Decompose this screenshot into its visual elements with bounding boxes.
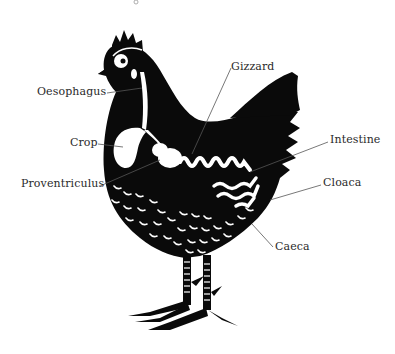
hen-digestive-diagram: Oesophagus Crop Proventriculus Gizzard I… (0, 0, 395, 354)
label-caeca: Caeca (275, 241, 310, 253)
leader-caeca (252, 224, 273, 247)
hen-silhouette (98, 30, 300, 330)
label-intestine: Intestine (330, 134, 380, 146)
stray-mark (134, 0, 138, 4)
label-proventriculus: Proventriculus (21, 178, 104, 190)
label-crop: Crop (70, 137, 98, 149)
label-cloaca: Cloaca (323, 177, 361, 189)
wattle (131, 69, 137, 79)
label-gizzard: Gizzard (231, 61, 274, 73)
leader-cloaca (270, 185, 321, 200)
label-oesophagus: Oesophagus (37, 86, 106, 98)
